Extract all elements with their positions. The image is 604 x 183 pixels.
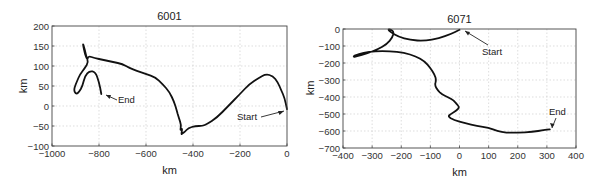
y-tick-label: −50	[33, 121, 49, 132]
y-tick-label: 100	[33, 61, 49, 72]
plot-6071: −400−300−200−1000100200300400−700−600−50…	[304, 13, 584, 178]
chart-canvas: −1000−800−600−400−2000−100−5005010015020…	[0, 0, 604, 183]
x-tick-label: −800	[88, 148, 109, 159]
x-tick-label: −300	[361, 150, 382, 161]
y-tick-label: −200	[319, 58, 340, 69]
end-annotation-6001: End	[106, 94, 135, 105]
end-label-6071: End	[549, 106, 566, 117]
y-tick-label: 200	[33, 21, 49, 32]
grid-6001	[52, 26, 287, 146]
x-tick-label: 400	[568, 150, 584, 161]
start-label-6071: Start	[482, 46, 502, 57]
y-axis-label-6001: km	[17, 79, 29, 94]
chart-title-6071: 6071	[447, 13, 471, 25]
arrowhead-icon	[465, 31, 470, 36]
start-annotation-6071: Start	[465, 31, 502, 57]
arrowhead-icon	[106, 95, 111, 99]
chart-title-6001: 6001	[157, 10, 181, 22]
y-tick-label: 0	[44, 101, 49, 112]
x-tick-label: 100	[481, 150, 497, 161]
arrowhead-icon	[278, 111, 284, 115]
end-annotation-6071: End	[549, 106, 566, 128]
trajectory-6071	[354, 29, 550, 132]
y-tick-label: −600	[319, 126, 340, 137]
x-axis-label-6071: km	[452, 166, 467, 178]
start-label-6001: Start	[237, 111, 257, 122]
end-label-6001: End	[118, 94, 135, 105]
y-tick-label: 0	[335, 24, 340, 35]
x-tick-label: −200	[391, 150, 412, 161]
x-tick-label: −400	[182, 148, 203, 159]
x-tick-label: −200	[229, 148, 250, 159]
y-tick-label: −700	[319, 143, 340, 154]
y-tick-label: −400	[319, 92, 340, 103]
y-tick-label: −100	[28, 141, 49, 152]
ticks-6001: −1000−800−600−400−2000−100−5005010015020…	[28, 21, 290, 160]
x-tick-label: 0	[284, 148, 289, 159]
plot-6001: −1000−800−600−400−2000−100−5005010015020…	[17, 10, 290, 176]
x-axis-label-6001: km	[162, 164, 177, 176]
ticks-6071: −400−300−200−1000100200300400−700−600−50…	[319, 24, 584, 162]
start-annotation-6001: Start	[237, 111, 284, 122]
y-tick-label: −500	[319, 109, 340, 120]
x-tick-label: 0	[457, 150, 462, 161]
y-tick-label: 150	[33, 41, 49, 52]
x-tick-label: 200	[510, 150, 526, 161]
x-tick-label: −100	[420, 150, 441, 161]
x-tick-label: −600	[135, 148, 156, 159]
x-tick-label: 300	[539, 150, 555, 161]
y-tick-label: 50	[38, 81, 49, 92]
y-axis-label-6071: km	[304, 81, 316, 96]
y-tick-label: −300	[319, 75, 340, 86]
y-tick-label: −100	[319, 41, 340, 52]
